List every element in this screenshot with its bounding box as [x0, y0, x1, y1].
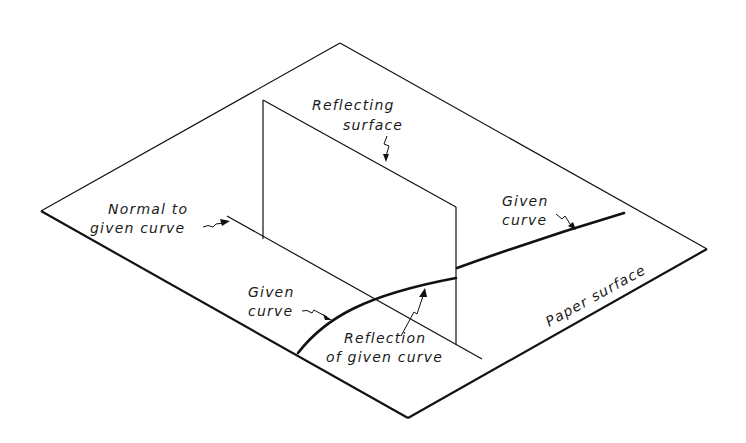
- arrowhead-icon: [323, 314, 332, 320]
- arrowhead-icon: [220, 219, 230, 226]
- label-given-left-line1: Given: [248, 284, 295, 300]
- label-normal-line2: given curve: [90, 220, 185, 236]
- arrowhead-icon: [419, 288, 427, 297]
- leader-normal: [203, 219, 230, 227]
- label-reflection-line1: Reflection: [344, 330, 426, 346]
- arrowhead-icon: [383, 154, 389, 162]
- label-reflecting-line2: surface: [343, 117, 403, 133]
- paper-edge-bottom-left: [41, 211, 408, 418]
- label-given-right-line2: curve: [502, 212, 547, 228]
- leader-given-curve-left: [302, 310, 332, 320]
- label-reflecting-line1: Reflecting: [312, 97, 395, 113]
- paper-edge-bottom-right: [408, 249, 707, 418]
- leader-given-curve-right: [556, 214, 576, 230]
- label-paper-surface: Paper surface: [543, 261, 649, 329]
- label-reflection-line2: of given curve: [326, 349, 443, 365]
- leader-reflection: [401, 288, 427, 336]
- label-given-left-line2: curve: [248, 303, 293, 319]
- label-normal-line1: Normal to: [108, 201, 188, 217]
- diagram-canvas: Reflecting surface Normal to given curve…: [0, 0, 746, 443]
- paper-edge-top-left: [41, 43, 340, 211]
- label-given-right-line1: Given: [502, 193, 549, 209]
- leader-reflecting-surface: [383, 136, 389, 162]
